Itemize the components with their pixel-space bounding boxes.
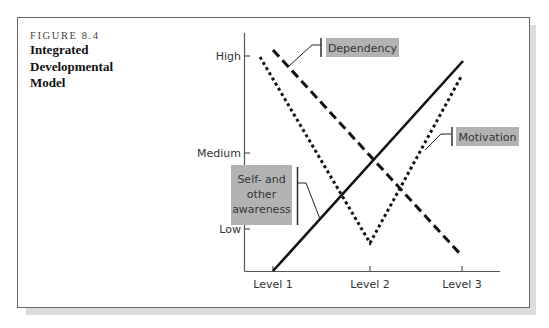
dependency-leader-line: [289, 45, 321, 66]
awareness-tag-line: awareness: [232, 203, 291, 216]
x-label-level3: Level 3: [442, 278, 482, 291]
motivation-tag-label: Motivation: [459, 131, 517, 144]
awareness-tag-line: other: [247, 188, 277, 201]
awareness-leader-line: [297, 183, 320, 219]
dependency-tag-label: Dependency: [328, 42, 398, 55]
dependency-annotation: Dependency: [289, 38, 399, 66]
y-label-medium: Medium: [197, 147, 241, 160]
chart-svg: High Medium Low Level 1 Level 2 Level 3 …: [0, 0, 549, 328]
x-label-level2: Level 2: [350, 278, 390, 291]
axes: [245, 33, 501, 272]
motivation-annotation: Motivation: [425, 127, 519, 150]
y-label-high: High: [216, 50, 241, 63]
series-dependency-line: [273, 50, 462, 256]
awareness-tag-line: Self- and: [237, 173, 285, 186]
awareness-annotation: Self- and other awareness: [231, 165, 320, 225]
x-label-level1: Level 1: [253, 278, 293, 291]
